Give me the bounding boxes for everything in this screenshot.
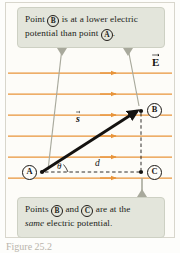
leader-bottom-head — [137, 189, 147, 197]
callout-top-line-1: Point B is at a lower electric — [25, 13, 157, 27]
callout-bottom-text-1a: Points — [25, 204, 51, 214]
callout-bottom-line-1: Points B and C are at the — [25, 203, 157, 217]
callout-leaders-group — [48, 48, 147, 197]
figure-page: A B C E s θ d Point B is at a lower elec… — [0, 0, 180, 253]
angle-theta-label: θ — [57, 161, 61, 171]
callout-top-text-2a: potential than point — [25, 28, 101, 38]
callout-top: Point B is at a lower electric potential… — [17, 7, 165, 48]
diagram-point-b: B — [147, 103, 162, 118]
inline-point-a-icon: A — [101, 29, 113, 41]
inline-point-b-icon: B — [47, 15, 59, 27]
point-dot-b — [139, 109, 143, 113]
leader-top-right-head — [123, 48, 133, 56]
diagram-point-a: A — [22, 165, 37, 180]
point-dot-c — [139, 170, 143, 174]
field-vector-label: E — [152, 56, 159, 68]
callout-top-text-1a: Point — [25, 14, 47, 24]
field-lines-group — [8, 73, 172, 178]
callout-bottom-text-1b: and — [63, 204, 81, 214]
displacement-vector-label: s — [76, 113, 80, 124]
vector-arrow-overbar-e — [152, 53, 159, 57]
inline-point-b-icon-2: B — [51, 205, 63, 217]
point-dot-a — [40, 170, 44, 174]
callout-bottom-emphasis: same — [25, 218, 44, 228]
callout-bottom: Points B and C are at the same electric … — [17, 197, 165, 238]
distance-d-label: d — [95, 158, 100, 168]
callout-bottom-line-2: same electric potential. — [25, 217, 157, 231]
field-vector-letter: E — [152, 56, 159, 68]
diagram-point-c: C — [147, 165, 162, 180]
displacement-vector-letter: s — [76, 113, 80, 124]
leader-top-right — [128, 48, 139, 106]
leader-top-left-head — [57, 48, 67, 56]
figure-caption: Figure 25.2 — [6, 241, 174, 253]
leader-top-left — [48, 48, 62, 170]
callout-top-text-1b: is at a lower electric — [59, 14, 138, 24]
callout-top-line-2: potential than point A. — [25, 27, 157, 41]
callout-bottom-text-2b: electric potential. — [44, 218, 112, 228]
callout-bottom-text-1c: are at the — [93, 204, 130, 214]
callout-top-text-2b: . — [113, 28, 115, 38]
angle-theta-arc — [64, 165, 69, 173]
vector-arrow-overbar-s — [76, 110, 80, 114]
inline-point-c-icon: C — [81, 205, 93, 217]
